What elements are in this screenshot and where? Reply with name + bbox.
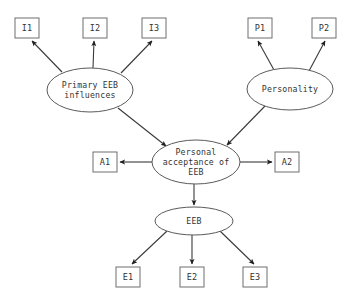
edge-primary-to-i2 [93, 41, 94, 68]
latent-node-label: Primary EEB [62, 80, 118, 90]
observed-node-i1[interactable]: I1 [15, 18, 39, 38]
observed-node-label: A1 [100, 157, 111, 167]
edge-line [258, 41, 274, 70]
observed-node-label: I1 [22, 23, 33, 33]
observed-node-e1[interactable]: E1 [116, 267, 140, 287]
latent-node-label: EEB [188, 167, 203, 177]
observed-node-label: P2 [319, 23, 330, 33]
observed-node-label: E1 [123, 272, 134, 282]
observed-node-e2[interactable]: E2 [180, 267, 204, 287]
edge-line [132, 231, 167, 264]
sem-path-diagram: Primary EEBinfluencesPersonalityPersonal… [0, 0, 352, 307]
latent-node-primary-eeb-influences[interactable]: Primary EEBinfluences [47, 68, 133, 112]
observed-node-label: P1 [255, 23, 266, 33]
observed-node-e3[interactable]: E3 [243, 267, 267, 287]
latent-node-eeb[interactable]: EEB [155, 207, 233, 235]
latent-node-label: Personal [175, 147, 216, 157]
edge-primary-to-i1 [32, 41, 62, 72]
latent-node-label: EEB [186, 216, 201, 226]
observed-node-label: A2 [282, 157, 293, 167]
edge-line [227, 106, 265, 145]
observed-node-label: I3 [149, 23, 160, 33]
observed-node-p1[interactable]: P1 [248, 18, 272, 38]
edge-line [93, 41, 94, 68]
latent-node-label: influences [64, 90, 115, 100]
latent-node-personal-acceptance-of-eeb[interactable]: Personalacceptance ofEEB [152, 140, 240, 184]
edge-line [309, 41, 325, 71]
edge-primary-to-acceptance [118, 108, 166, 146]
diagram-canvas: Primary EEBinfluencesPersonalityPersonal… [0, 0, 352, 307]
edge-eeb-to-e3 [220, 231, 254, 264]
observed-node-i3[interactable]: I3 [142, 18, 166, 38]
edge-primary-to-i3 [121, 41, 152, 73]
edge-personality-to-p1 [258, 41, 274, 70]
edge-line [220, 231, 254, 264]
edge-personality-to-p2 [309, 41, 325, 71]
observed-node-a2[interactable]: A2 [275, 152, 299, 172]
edge-line [118, 108, 166, 146]
observed-node-label: E3 [250, 272, 261, 282]
edge-eeb-to-e1 [132, 231, 167, 264]
observed-node-label: I2 [90, 23, 101, 33]
observed-node-p2[interactable]: P2 [312, 18, 336, 38]
observed-node-a1[interactable]: A1 [93, 152, 117, 172]
latent-node-label: acceptance of [163, 157, 230, 167]
latent-node-personality[interactable]: Personality [247, 68, 333, 110]
edge-line [32, 41, 62, 72]
edge-line [121, 41, 152, 73]
latent-node-label: Personality [262, 84, 318, 94]
observed-node-i2[interactable]: I2 [83, 18, 107, 38]
observed-node-label: E2 [187, 272, 198, 282]
edge-personality-to-acceptance [227, 106, 265, 145]
